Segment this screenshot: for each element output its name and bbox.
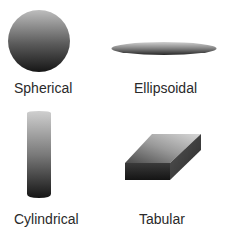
- tabular-shape: [124, 133, 202, 182]
- ellipsoid-shape: [111, 41, 217, 56]
- label-ellipsoidal: Ellipsoidal: [134, 80, 197, 96]
- sphere-shape: [7, 9, 71, 73]
- cylinder-shape: [26, 110, 52, 199]
- label-tabular: Tabular: [139, 211, 185, 227]
- label-spherical: Spherical: [14, 80, 72, 96]
- label-cylindrical: Cylindrical: [14, 211, 79, 227]
- particle-shape-diagram: Spherical Ellipsoidal: [0, 0, 228, 234]
